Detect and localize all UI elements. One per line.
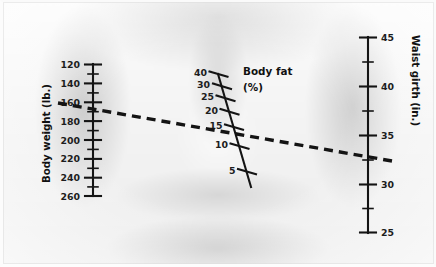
figure-border — [0, 0, 436, 267]
nomogram-figure: 120 140 160 180 200 220 240 260 Body wei… — [0, 0, 436, 267]
